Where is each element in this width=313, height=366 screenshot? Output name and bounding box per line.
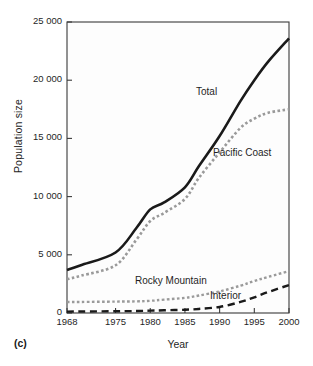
series-label-rocky-mountain: Rocky Mountain (135, 275, 207, 286)
series-label-total: Total (196, 86, 217, 97)
figure-panel-c: (c) Population size Year 05 00010 00015 … (0, 0, 313, 366)
x-tick-label: 2000 (266, 316, 312, 327)
series-label-interior: Interior (210, 290, 241, 301)
series-label-pacific-coast: Pacific Coast (213, 147, 271, 158)
x-axis-tick-labels: 1968197519801985199019952000 (0, 0, 313, 366)
x-tick-label: 1968 (44, 316, 90, 327)
